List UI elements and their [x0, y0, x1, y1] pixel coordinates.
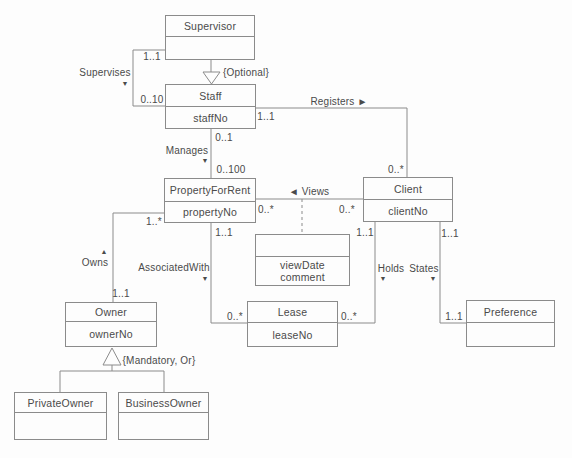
class-attribute: ownerNo [89, 328, 132, 340]
assoc-owns: Owns [82, 257, 108, 268]
mult-states-client: 1..1 [441, 228, 458, 239]
constraint-optional: {Optional} [223, 67, 269, 78]
class-name-compartment [256, 235, 349, 257]
class-name-compartment: PropertyForRent [165, 179, 255, 202]
class-name: Client [394, 183, 422, 195]
arrow-manages-down: ▼ [201, 157, 208, 164]
associated-with-line [211, 223, 247, 323]
class-name-compartment: PrivateOwner [15, 393, 106, 413]
assoc-views: ◄ Views [289, 186, 330, 197]
class-attribute-compartment [119, 413, 208, 439]
mult-manages-staff: 0..1 [215, 132, 232, 143]
class-name: Supervisor [184, 20, 236, 32]
assoc-supervises: Supervises [79, 67, 130, 78]
class-name: Lease [278, 306, 308, 318]
class-name: BusinessOwner [125, 397, 201, 409]
class-staff: StaffstaffNo [165, 84, 256, 129]
arrow-supervises-down: ▼ [121, 80, 128, 87]
mult-associatedwith-lease: 0..* [227, 311, 243, 322]
class-preference: Preference [466, 300, 555, 347]
class-client: ClientclientNo [363, 177, 453, 222]
assoc-registers: Registers ► [310, 96, 367, 107]
class-attribute: clientNo [388, 205, 428, 217]
class-attribute-compartment: ownerNo [66, 322, 156, 346]
class-viewing: viewDatecomment [255, 234, 350, 286]
uml-class-diagram: SupervisorStaffstaffNoPropertyForRentpro… [0, 0, 572, 458]
class-attribute-compartment [467, 323, 554, 346]
class-name: Owner [95, 306, 127, 318]
mult-owns-owner: 1..1 [112, 288, 129, 299]
class-name-compartment: BusinessOwner [119, 393, 208, 413]
arrow-associatedwith-down: ▼ [201, 275, 208, 282]
class-attribute-compartment: viewDatecomment [256, 257, 349, 285]
class-attribute-compartment [166, 37, 254, 59]
mult-registers-staff: 1..1 [257, 111, 274, 122]
class-attribute: staffNo [193, 112, 227, 124]
class-private-owner: PrivateOwner [14, 392, 107, 440]
assoc-associatedwith: AssociatedWith [138, 262, 210, 273]
arrow-holds-down: ▼ [379, 275, 386, 282]
owner-generalization-triangle [103, 348, 121, 365]
class-business-owner: BusinessOwner [118, 392, 209, 440]
class-name: Staff [199, 90, 221, 102]
mult-supervises-staff: 0..10 [140, 94, 163, 105]
class-attribute-compartment [15, 413, 106, 439]
mult-manages-property: 0..100 [216, 164, 245, 175]
class-name: PrivateOwner [27, 397, 93, 409]
class-attribute-compartment: propertyNo [165, 202, 255, 222]
class-name: PropertyForRent [170, 184, 251, 196]
class-name-compartment: Preference [467, 301, 554, 323]
class-attribute: propertyNo [183, 206, 237, 218]
class-attribute: leaseNo [273, 329, 313, 341]
class-attribute-compartment: leaseNo [248, 323, 337, 346]
class-name-compartment: Supervisor [166, 16, 254, 37]
mult-associatedwith-property: 1..1 [215, 227, 232, 238]
class-attribute: viewDate [280, 259, 325, 271]
class-supervisor: Supervisor [165, 15, 255, 60]
class-attribute-compartment: staffNo [166, 107, 255, 128]
class-name-compartment: Staff [166, 85, 255, 107]
class-name: Preference [484, 306, 537, 318]
arrow-owns-up: ▲ [100, 248, 107, 255]
assoc-holds: Holds [378, 263, 405, 274]
arrow-states-down: ▼ [429, 275, 436, 282]
registers-line [256, 108, 407, 177]
constraint-mandatory-or: {Mandatory, Or} [123, 355, 196, 366]
class-name-compartment: Client [364, 178, 452, 200]
mult-holds-lease: 0..* [341, 311, 357, 322]
class-owner: OwnerownerNo [65, 302, 157, 347]
mult-supervises-supervisor: 1..1 [143, 51, 160, 62]
mult-registers-client: 0..* [388, 164, 404, 175]
class-attribute: comment [280, 271, 325, 283]
mult-owns-property: 1..* [146, 216, 162, 227]
mult-views-property: 0..* [258, 204, 274, 215]
class-attribute-compartment: clientNo [364, 200, 452, 221]
assoc-states: States [409, 263, 439, 274]
mult-holds-client: 1..1 [356, 227, 373, 238]
class-property-for-rent: PropertyForRentpropertyNo [164, 178, 256, 223]
assoc-manages: Manages [166, 145, 209, 156]
staff-generalization-triangle [203, 72, 220, 84]
mult-states-preference: 1..1 [445, 311, 462, 322]
class-lease: LeaseleaseNo [247, 301, 338, 347]
class-name-compartment: Lease [248, 302, 337, 323]
mult-views-client: 0..* [339, 204, 355, 215]
class-name-compartment: Owner [66, 303, 156, 322]
